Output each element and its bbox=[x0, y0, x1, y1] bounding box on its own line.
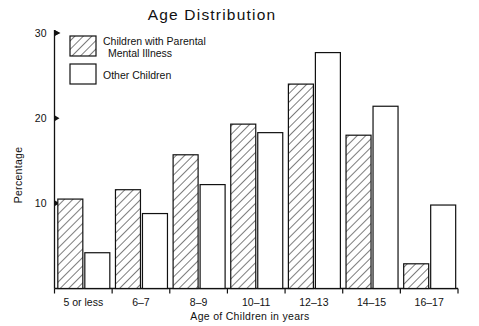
chart-legend: Children with Parental Mental Illness Ot… bbox=[70, 35, 206, 84]
chart-canvas: Age Distribution 102030 Percentage 5 or … bbox=[0, 0, 479, 326]
bar bbox=[431, 205, 456, 288]
bar bbox=[200, 185, 225, 289]
y-tick-label: 30 bbox=[35, 27, 47, 39]
legend-label-parental-illness-line1: Children with Parental bbox=[103, 35, 206, 47]
x-category-label: 14–15 bbox=[357, 296, 386, 308]
bars-group bbox=[58, 53, 456, 289]
bar bbox=[373, 106, 398, 288]
x-category-label: 12–13 bbox=[299, 296, 328, 308]
bar bbox=[85, 253, 110, 289]
x-category-labels: 5 or less6–78–910–1112–1314–1516–17 bbox=[63, 296, 443, 308]
y-axis-label: Percentage bbox=[12, 147, 24, 204]
x-tick-group bbox=[55, 289, 459, 294]
x-category-label: 5 or less bbox=[63, 296, 103, 308]
bar bbox=[404, 264, 429, 289]
legend-label-parental-illness-line2: Mental Illness bbox=[108, 47, 172, 59]
x-category-label: 16–17 bbox=[415, 296, 444, 308]
bar bbox=[258, 133, 283, 289]
legend-swatch-hatched bbox=[70, 36, 96, 56]
bar bbox=[58, 199, 83, 288]
chart-title: Age Distribution bbox=[148, 6, 277, 23]
bar bbox=[142, 214, 167, 289]
bar bbox=[231, 124, 256, 288]
bar bbox=[115, 190, 140, 289]
bar bbox=[315, 53, 340, 289]
y-tick-label: 20 bbox=[35, 112, 47, 124]
x-category-label: 6–7 bbox=[132, 296, 150, 308]
y-tick-label: 10 bbox=[35, 197, 47, 209]
age-distribution-chart: Age Distribution 102030 Percentage 5 or … bbox=[0, 0, 479, 326]
bar bbox=[346, 135, 371, 288]
legend-label-other-children: Other Children bbox=[103, 69, 171, 81]
bar bbox=[288, 84, 313, 288]
x-category-label: 10–11 bbox=[242, 296, 271, 308]
bar bbox=[173, 155, 198, 289]
legend-swatch-open bbox=[70, 64, 96, 84]
x-category-label: 8–9 bbox=[190, 296, 208, 308]
y-tick-group: 102030 bbox=[35, 27, 60, 209]
x-axis-label: Age of Children in years bbox=[190, 310, 309, 322]
